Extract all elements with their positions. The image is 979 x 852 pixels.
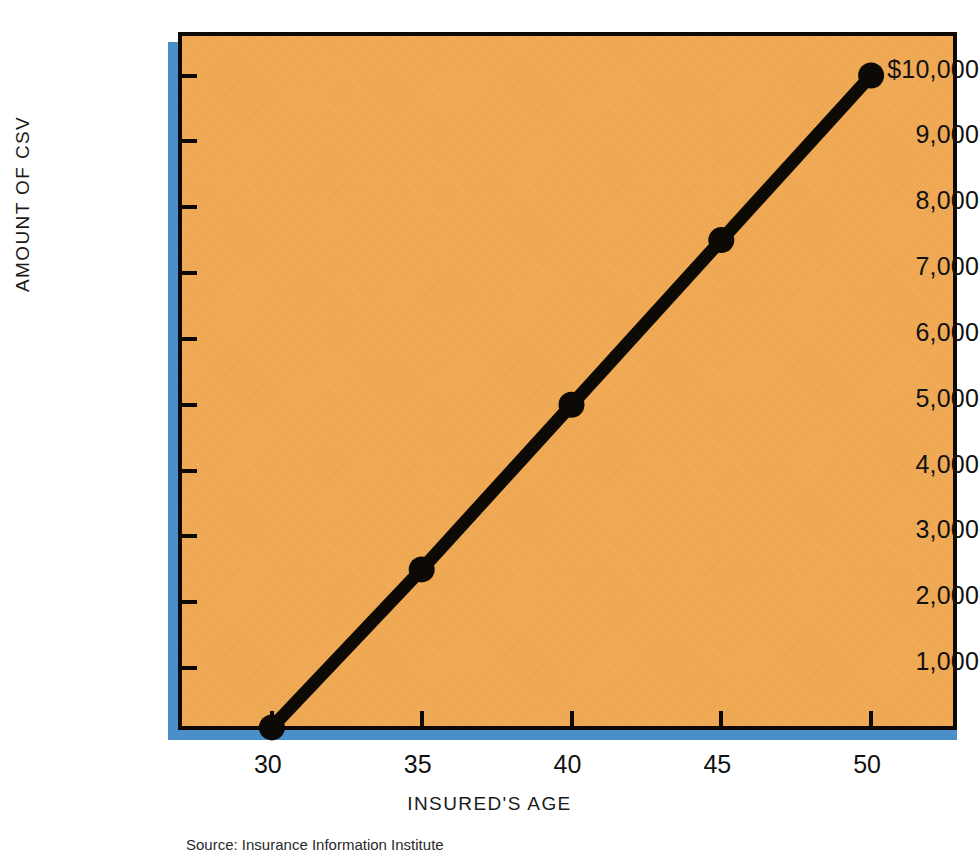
y-axis-tick-label: 3,000 (827, 515, 979, 544)
source-note: Source: Insurance Information Institute (186, 836, 444, 852)
x-axis-tick-label: 40 (508, 750, 628, 779)
y-axis-title: AMOUNT OF CSV (12, 260, 34, 292)
y-axis-tick-label: 4,000 (827, 450, 979, 479)
x-axis-tick-label: 35 (358, 750, 478, 779)
x-axis-tick-label: 45 (657, 750, 777, 779)
data-point-marker (559, 392, 585, 418)
y-axis-tick-label: 5,000 (827, 384, 979, 413)
y-axis-tick-label: 7,000 (827, 252, 979, 281)
data-point-marker (409, 556, 435, 582)
y-axis-tick-label: 8,000 (827, 186, 979, 215)
data-point-marker (259, 714, 285, 740)
chart-figure: 1,0002,0003,0004,0005,0006,0007,0008,000… (0, 0, 979, 852)
y-axis-tick-label: $10,000 (827, 55, 979, 84)
y-axis-tick-label: 1,000 (827, 647, 979, 676)
y-axis-tick-label: 6,000 (827, 318, 979, 347)
x-axis-title: INSURED'S AGE (0, 793, 979, 815)
data-point-marker (708, 227, 734, 253)
y-axis-tick-label: 2,000 (827, 581, 979, 610)
x-axis-tick-label: 30 (208, 750, 328, 779)
x-axis-tick-label: 50 (807, 750, 927, 779)
y-axis-tick-label: 9,000 (827, 120, 979, 149)
